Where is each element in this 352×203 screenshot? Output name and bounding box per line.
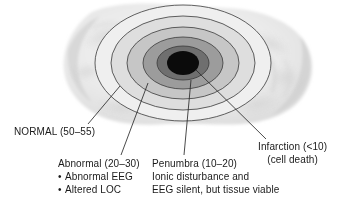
zone-label-infarction: Infarction (<10) (cell death) [258,140,327,166]
zone-label-abnormal: Abnormal (20–30) Abnormal EEG Altered LO… [58,157,140,196]
zone-infarction [167,51,199,75]
ischemia-zones [95,5,271,121]
zone-label-normal: NORMAL (50–55) [14,126,95,139]
normal-label-text: NORMAL (50–55) [14,126,95,137]
abnormal-heading: Abnormal (20–30) [58,157,140,170]
infarction-line-2: (cell death) [258,153,327,166]
penumbra-line-3: EEG silent, but tissue viable [152,183,279,196]
penumbra-line-2: Ionic disturbance and [152,170,279,183]
abnormal-bullet-2: Altered LOC [58,183,140,196]
abnormal-bullet-1: Abnormal EEG [58,170,140,183]
infarction-heading: Infarction (<10) [258,140,327,153]
ischemia-diagram: NORMAL (50–55) Abnormal (20–30) Abnormal… [0,0,352,203]
